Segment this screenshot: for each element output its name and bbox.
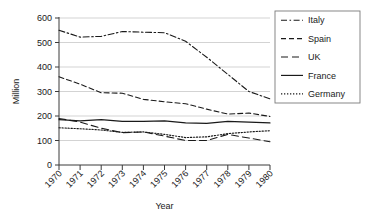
x-tick-label-1979: 1979 — [233, 168, 254, 189]
y-tick-label-100: 100 — [37, 136, 52, 146]
x-tick-label-1978: 1978 — [211, 168, 232, 189]
x-tick-labels-group: 1970197119721973197419751976197719781979… — [43, 168, 275, 189]
line-chart: 0100200300400500600 19701971197219731974… — [0, 0, 367, 217]
x-tick-label-1975: 1975 — [148, 168, 169, 189]
x-tick-label-1976: 1976 — [169, 168, 190, 189]
x-tick-label-1971: 1971 — [64, 168, 85, 189]
series-group — [59, 30, 270, 141]
legend-label-uk: UK — [308, 52, 321, 62]
x-tick-label-1977: 1977 — [190, 168, 211, 189]
y-tick-label-300: 300 — [37, 87, 52, 97]
x-tick-label-1970: 1970 — [43, 168, 64, 189]
series-line-france — [59, 120, 270, 124]
x-tick-label-1973: 1973 — [106, 168, 127, 189]
legend-label-italy: Italy — [308, 15, 325, 25]
x-tick-group — [59, 165, 270, 170]
axes-lines-group — [59, 17, 270, 165]
x-axis-title: Year — [155, 201, 173, 211]
legend-label-france: France — [308, 71, 336, 81]
legend-label-spain: Spain — [308, 34, 331, 44]
y-tick-label-600: 600 — [37, 13, 52, 23]
legend-label-germany: Germany — [308, 89, 346, 99]
y-tick-label-400: 400 — [37, 62, 52, 72]
x-tick-label-1972: 1972 — [85, 168, 106, 189]
chart-figure: 0100200300400500600 19701971197219731974… — [0, 0, 367, 217]
y-axis-title: Million — [11, 79, 21, 105]
y-tick-label-0: 0 — [47, 160, 52, 170]
y-tick-label-200: 200 — [37, 111, 52, 121]
x-tick-label-1980: 1980 — [254, 168, 275, 189]
y-tick-labels-group: 0100200300400500600 — [37, 13, 52, 170]
y-tick-label-500: 500 — [37, 38, 52, 48]
chart-legend[interactable]: ItalySpainUKFranceGermany — [275, 11, 360, 103]
x-tick-label-1974: 1974 — [127, 168, 148, 189]
y-tick-group — [55, 18, 59, 165]
